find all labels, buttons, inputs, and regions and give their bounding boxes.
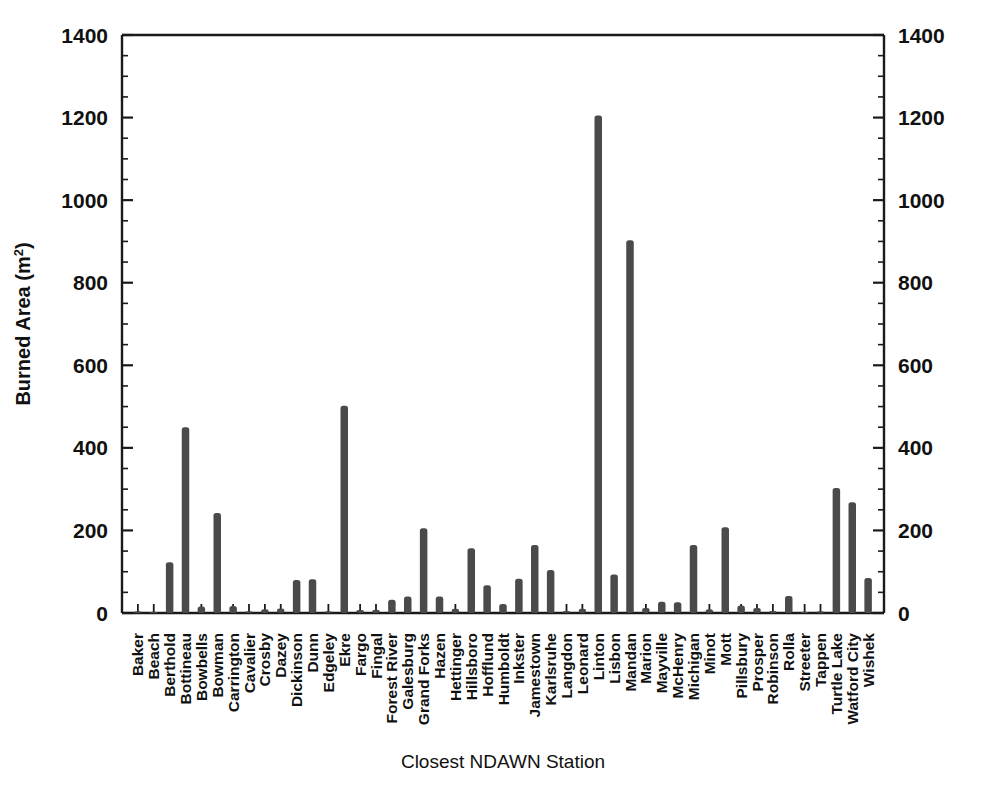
x-category-label-langdon: Langdon (558, 633, 575, 698)
bar-rolla (785, 596, 793, 613)
x-category-label-prosper: Prosper (749, 633, 766, 692)
y-tick-label-right-0: 0 (898, 602, 910, 625)
bar-dunn (309, 579, 317, 613)
bar-dickinson (293, 580, 301, 613)
x-category-label-inkster: Inkster (510, 633, 527, 684)
x-category-label-dunn: Dunn (304, 633, 321, 673)
bar-robinson (769, 611, 777, 613)
bar-marion (642, 608, 650, 613)
x-category-label-bottineau: Bottineau (177, 633, 194, 704)
x-category-label-hettinger: Hettinger (447, 633, 464, 701)
x-category-label-leonard: Leonard (574, 633, 591, 694)
x-category-label-galesburg: Galesburg (399, 633, 416, 710)
bar-forest-river (388, 600, 396, 613)
bar-langdon (563, 611, 571, 613)
bar-watford-city (849, 502, 857, 613)
x-category-label-karlsruhe: Karlsruhe (542, 633, 559, 706)
bar-fargo (356, 610, 364, 613)
bar-prosper (753, 608, 761, 613)
bar-inkster (515, 579, 523, 613)
bar-bottineau (182, 427, 190, 613)
x-category-label-minot: Minot (701, 633, 718, 674)
bar-carrington (229, 606, 237, 613)
bar-berthold (166, 562, 174, 613)
x-category-label-tappen: Tappen (812, 633, 829, 687)
bar-dazey (277, 608, 285, 613)
bar-wishek (864, 578, 872, 613)
bar-linton (595, 116, 603, 613)
y-tick-label-right-600: 600 (898, 354, 933, 377)
x-category-label-forest-river: Forest River (383, 633, 400, 723)
x-category-label-carrington: Carrington (225, 633, 242, 712)
y-tick-label-left-0: 0 (96, 602, 108, 625)
bar-mott (722, 527, 730, 613)
bar-edgeley (325, 611, 333, 613)
x-category-label-pillsbury: Pillsbury (733, 633, 750, 699)
x-category-label-lisbon: Lisbon (606, 633, 623, 684)
bar-lisbon (610, 575, 618, 613)
x-category-label-streeter: Streeter (796, 633, 813, 692)
x-category-label-hofflund: Hofflund (479, 633, 496, 697)
y-axis-title-tail: ) (12, 242, 34, 249)
bar-jamestown (531, 545, 539, 613)
bar-hofflund (483, 585, 491, 613)
y-tick-label-right-800: 800 (898, 271, 933, 294)
x-category-label-ekre: Ekre (336, 633, 353, 667)
x-category-label-robinson: Robinson (764, 633, 781, 704)
x-category-label-rolla: Rolla (780, 633, 797, 671)
y-tick-label-right-1200: 1200 (898, 106, 945, 129)
bar-mchenry (674, 602, 682, 613)
bar-mandan (626, 240, 634, 613)
bar-streeter (801, 612, 809, 613)
x-category-label-grand-forks: Grand Forks (415, 633, 432, 725)
y-axis-title: Burned Area (m2) (11, 242, 34, 405)
bar-galesburg (404, 596, 412, 613)
y-tick-label-left-1000: 1000 (61, 189, 108, 212)
bar-fingal (372, 610, 380, 613)
x-category-label-watford-city: Watford City (844, 633, 861, 725)
x-category-label-berthold: Berthold (161, 633, 178, 697)
bar-hettinger (452, 609, 460, 613)
y-tick-label-right-200: 200 (898, 519, 933, 542)
y-tick-label-left-600: 600 (73, 354, 108, 377)
bar-bowbells (198, 606, 206, 613)
x-category-label-fargo: Fargo (352, 633, 369, 676)
bar-leonard (579, 609, 587, 613)
bar-beach (150, 612, 158, 613)
y-axis-title-superscript: 2 (11, 249, 26, 256)
bar-minot (706, 609, 714, 613)
bar-crosby (261, 609, 269, 613)
bar-cavalier (245, 611, 253, 613)
x-axis-title: Closest NDAWN Station (401, 751, 605, 772)
x-category-label-baker: Baker (129, 633, 146, 676)
y-tick-label-right-400: 400 (898, 436, 933, 459)
bar-bowman (214, 513, 222, 613)
y-tick-label-left-1200: 1200 (61, 106, 108, 129)
burned-area-bar-chart: 0200400600800100012001400 02004006008001… (0, 0, 982, 789)
x-category-label-crosby: Crosby (256, 633, 273, 687)
y-tick-label-left-200: 200 (73, 519, 108, 542)
x-category-label-mchenry: McHenry (669, 633, 686, 699)
x-category-label-humboldt: Humboldt (495, 633, 512, 705)
x-category-label-hillsboro: Hillsboro (463, 633, 480, 700)
x-axis-title-text: Closest NDAWN Station (401, 751, 605, 772)
bar-mayville (658, 602, 666, 613)
x-category-label-marion: Marion (637, 633, 654, 684)
bar-hillsboro (468, 548, 476, 613)
x-category-label-bowbells: Bowbells (193, 633, 210, 701)
x-category-label-edgeley: Edgeley (320, 633, 337, 693)
x-category-label-linton: Linton (590, 633, 607, 680)
x-category-label-mandan: Mandan (622, 633, 639, 692)
x-category-label-jamestown: Jamestown (526, 633, 543, 717)
bar-pillsbury (737, 606, 745, 613)
bar-ekre (341, 406, 349, 613)
bar-karlsruhe (547, 570, 555, 613)
bar-tappen (817, 611, 825, 613)
y-tick-label-left-400: 400 (73, 436, 108, 459)
x-category-label-mott: Mott (717, 633, 734, 666)
bar-hazen (436, 596, 444, 613)
y-tick-label-left-800: 800 (73, 271, 108, 294)
x-category-label-mayville: Mayville (653, 633, 670, 694)
x-category-label-fingal: Fingal (368, 633, 385, 679)
x-category-label-cavalier: Cavalier (241, 633, 258, 693)
